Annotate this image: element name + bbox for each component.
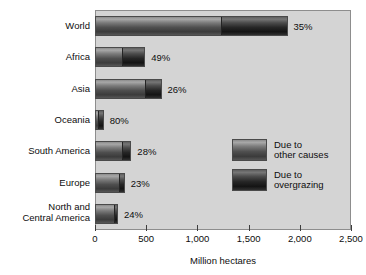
- x-tick: [249, 225, 250, 231]
- bar-segment-overgrazing: [221, 17, 287, 35]
- stacked-bar: 23%: [95, 173, 125, 193]
- bar-segment-other-causes: [96, 48, 122, 66]
- stacked-bar: 24%: [95, 204, 118, 224]
- stacked-bar: 26%: [95, 79, 162, 99]
- bar-segment-other-causes: [96, 205, 114, 223]
- legend-item-overgrazing: Due to overgrazing: [232, 169, 344, 191]
- x-tick: [146, 225, 147, 231]
- legend-label-overgrazing: Due to overgrazing: [274, 170, 324, 191]
- bar-row: North and Central America24%: [95, 204, 351, 224]
- bar-segment-overgrazing: [122, 142, 130, 160]
- bar-segment-overgrazing: [119, 174, 124, 192]
- category-label: Europe: [0, 178, 90, 189]
- bar-row: Africa49%: [95, 47, 351, 67]
- category-label: World: [0, 21, 90, 32]
- legend-label-other-causes: Due to other causes: [274, 140, 328, 161]
- bar-segment-other-causes: [96, 80, 145, 98]
- x-tick-label: 2,000: [288, 233, 312, 244]
- bar-segment-other-causes: [96, 142, 122, 160]
- bar-segment-overgrazing: [145, 80, 160, 98]
- bar-segment-overgrazing: [122, 48, 145, 66]
- category-label: Africa: [0, 52, 90, 63]
- stacked-bar: 35%: [95, 16, 288, 36]
- x-tick-label: 1,500: [237, 233, 261, 244]
- bar-segment-overgrazing: [98, 111, 103, 129]
- legend-item-other-causes: Due to other causes: [232, 139, 344, 161]
- legend-swatch-other-causes: [232, 139, 267, 161]
- x-tick-label: 2,500: [339, 233, 363, 244]
- x-tick-label: 500: [138, 233, 154, 244]
- bar-segment-other-causes: [96, 174, 119, 192]
- category-label: Oceania: [0, 115, 90, 126]
- category-label: Asia: [0, 84, 90, 95]
- bar-value-label: 49%: [151, 52, 170, 63]
- bar-value-label: 80%: [110, 115, 129, 126]
- stacked-bar: 49%: [95, 47, 145, 67]
- bar-segment-other-causes: [96, 17, 221, 35]
- stacked-bar: 28%: [95, 141, 131, 161]
- bar-value-label: 26%: [168, 83, 187, 94]
- x-axis-title: Million hectares: [95, 255, 351, 266]
- x-tick: [351, 225, 352, 231]
- x-tick: [300, 225, 301, 231]
- x-axis: 05001,0001,5002,0002,500: [95, 230, 351, 231]
- bar-row: Oceania80%: [95, 110, 351, 130]
- bar-value-label: 35%: [294, 20, 313, 31]
- category-label: North and Central America: [0, 202, 90, 223]
- x-tick-label: 0: [92, 233, 97, 244]
- bar-segment-overgrazing: [114, 205, 118, 223]
- bar-value-label: 23%: [131, 177, 150, 188]
- stacked-bar: 80%: [95, 110, 104, 130]
- category-label: South America: [0, 146, 90, 157]
- x-tick: [197, 225, 198, 231]
- bar-row: Asia26%: [95, 79, 351, 99]
- bar-row: World35%: [95, 16, 351, 36]
- chart-legend: Due to other causes Due to overgrazing: [232, 139, 344, 199]
- legend-swatch-overgrazing: [232, 169, 267, 191]
- x-tick-label: 1,000: [186, 233, 210, 244]
- bar-value-label: 24%: [124, 209, 143, 220]
- x-tick: [95, 225, 96, 231]
- bar-value-label: 28%: [137, 146, 156, 157]
- chart-figure: World35%Africa49%Asia26%Oceania80%South …: [0, 0, 366, 275]
